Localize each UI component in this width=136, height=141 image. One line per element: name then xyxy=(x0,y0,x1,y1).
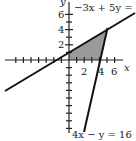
y-axis-label: y xyxy=(59,0,66,7)
equation-label-line-1: −3x + 5y = 5 xyxy=(74,2,136,13)
x-axis-label: x xyxy=(124,62,130,73)
equation-label-line-2: 4x − y = 16 xyxy=(72,129,132,140)
x-axis xyxy=(5,57,123,63)
x-tick-label-6: 6 xyxy=(111,66,117,77)
x-tick-label-2: 2 xyxy=(81,66,87,77)
y-axis xyxy=(65,2,73,133)
y-tick-label-6: 6 xyxy=(58,9,64,20)
x-tick-label-4: 4 xyxy=(98,66,104,77)
coordinate-graph: 6 4 2 2 4 6 x y −3x + 5y = 5 4x − y = 16 xyxy=(0,0,136,141)
y-tick-label-2: 2 xyxy=(58,39,64,50)
y-tick-label-4: 4 xyxy=(58,24,64,35)
line-neg3x-plus-5y-eq-5 xyxy=(5,13,135,91)
